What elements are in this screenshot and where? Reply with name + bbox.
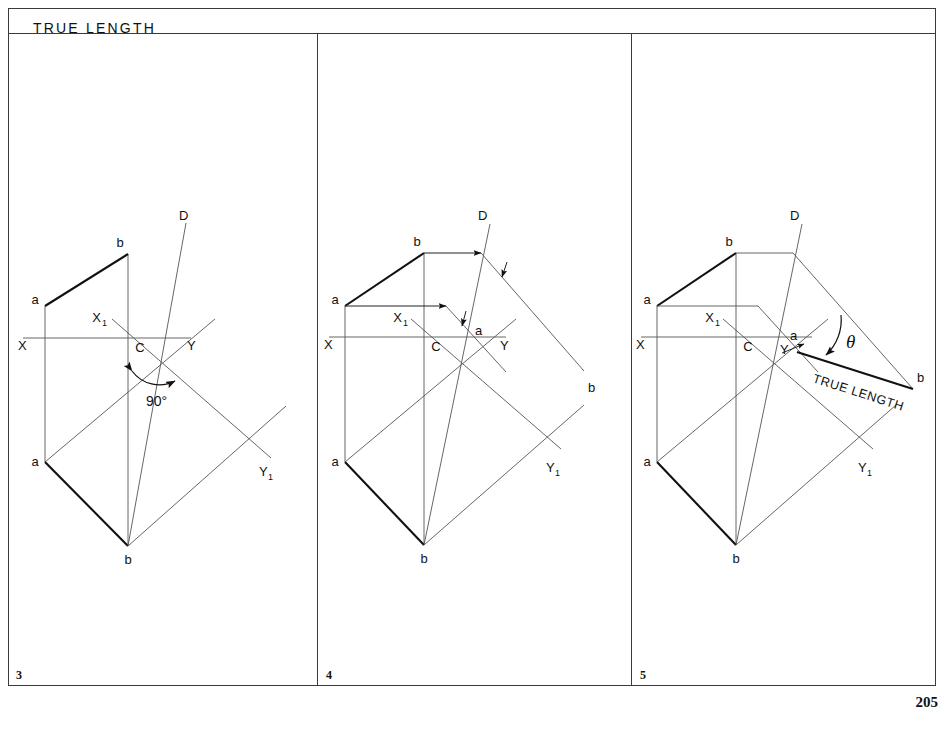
panel-5-drawing: b a a b a b X Y C X 1 Y 1 D θ TRUE LENGT…: [632, 34, 935, 686]
top-view-ab: [345, 253, 424, 306]
label-b-top: b: [413, 234, 420, 249]
label-a-top: a: [31, 292, 39, 307]
label-d-line: D: [478, 208, 487, 223]
panel-number-4: 4: [326, 668, 332, 683]
top-view-ab: [45, 254, 128, 306]
panel-3-drawing: b a a b X Y C X 1 Y 1 D 90°: [9, 34, 317, 686]
label-a-projected: a: [475, 323, 483, 338]
label-a-top: a: [643, 292, 651, 307]
label-x1: X: [92, 310, 101, 325]
label-y1: Y: [546, 460, 555, 475]
label-y-axis: Y: [187, 338, 196, 353]
cd-direction-line: [736, 224, 802, 545]
right-angle-arc: [132, 371, 175, 385]
label-a-bottom: a: [31, 454, 39, 469]
label-center-c: C: [431, 339, 440, 354]
label-center-c: C: [743, 339, 752, 354]
label-x1-subscript: 1: [715, 318, 720, 328]
label-y1-subscript: 1: [867, 468, 872, 478]
label-b-projected: b: [917, 370, 924, 385]
panel-4-drawing: b a a b a b X Y C X 1 Y 1 D: [318, 34, 631, 686]
title-bar: TRUE LENGTH: [8, 8, 936, 34]
label-x1-subscript: 1: [102, 318, 107, 328]
theta-angle-arc: [826, 315, 841, 355]
label-d-line: D: [179, 208, 188, 223]
front-view-ab: [657, 462, 736, 545]
label-x1: X: [393, 310, 402, 325]
label-x-axis: X: [18, 338, 27, 353]
label-b-top: b: [725, 234, 732, 249]
label-y-axis: Y: [500, 338, 509, 353]
transfer-line-b: [481, 253, 584, 371]
label-a-projected: a: [790, 328, 798, 343]
transfer-line-a: [758, 306, 818, 372]
label-a-bottom: a: [643, 454, 651, 469]
label-a-top: a: [331, 292, 339, 307]
label-theta: θ: [846, 331, 855, 352]
transfer-line-a: [446, 306, 506, 372]
measure-arrow-b: [502, 262, 507, 277]
label-a-bottom: a: [331, 454, 339, 469]
label-x1: X: [705, 310, 714, 325]
panel-number-5: 5: [640, 668, 646, 683]
label-b-projected: b: [588, 380, 595, 395]
label-y-pointer: Y: [780, 342, 789, 357]
label-y1: Y: [259, 464, 268, 479]
label-x1-subscript: 1: [403, 318, 408, 328]
front-view-ab: [345, 462, 424, 545]
transfer-line-b: [793, 253, 913, 389]
page-number: 205: [916, 694, 939, 711]
front-view-ab: [45, 462, 128, 546]
label-b-bottom: b: [420, 551, 427, 566]
panel-number-3: 3: [16, 668, 22, 683]
label-y1: Y: [858, 460, 867, 475]
drawing-sheet: TRUE LENGTH b a a b: [0, 0, 946, 733]
label-d-line: D: [790, 208, 799, 223]
label-center-c: C: [135, 340, 144, 355]
label-b-top: b: [116, 235, 123, 250]
label-90-degrees: 90°: [146, 393, 167, 409]
cd-direction-line: [424, 224, 490, 545]
label-x-axis: X: [324, 337, 333, 352]
label-y1-subscript: 1: [555, 468, 560, 478]
measure-arrow-a: [462, 311, 466, 326]
label-b-bottom: b: [732, 551, 739, 566]
label-x-axis: X: [636, 337, 645, 352]
label-b-bottom: b: [124, 552, 131, 567]
top-view-ab: [657, 253, 736, 306]
label-y1-subscript: 1: [268, 472, 273, 482]
